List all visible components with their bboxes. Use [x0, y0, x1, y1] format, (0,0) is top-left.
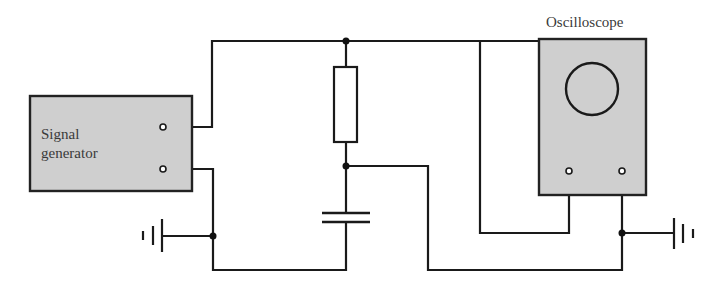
resistor [334, 67, 357, 142]
ground-right-icon [674, 218, 693, 249]
oscilloscope-terminal-2 [619, 168, 625, 174]
oscilloscope-terminal-1 [566, 168, 572, 174]
junction-top [343, 38, 350, 45]
junction-ground-left [210, 233, 217, 240]
wire-top [166, 41, 560, 127]
signal-generator-label: Signal generator [41, 125, 98, 163]
junction-ground-right [619, 230, 626, 237]
circuit-diagram [0, 0, 714, 304]
signal-generator-terminal-2 [160, 166, 166, 172]
junction-mid [343, 163, 350, 170]
ground-left-icon [143, 219, 162, 252]
oscilloscope-label: Oscilloscope [546, 13, 623, 32]
signal-generator-label-line2: generator [41, 144, 98, 163]
signal-generator-label-line1: Signal [41, 125, 98, 144]
signal-generator-terminal-1 [160, 124, 166, 130]
